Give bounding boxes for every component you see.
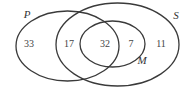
- venn-diagram: P S M 33 17 32 7 11: [0, 0, 189, 96]
- set-m-label: M: [136, 54, 147, 66]
- set-p-label: P: [23, 8, 31, 20]
- region-p-s-m-count: 32: [100, 38, 110, 49]
- region-s-only-count: 11: [156, 38, 166, 49]
- region-p-only-count: 33: [24, 38, 34, 49]
- region-s-m-count: 7: [129, 38, 134, 49]
- region-p-s-count: 17: [64, 38, 74, 49]
- set-s-label: S: [173, 9, 179, 21]
